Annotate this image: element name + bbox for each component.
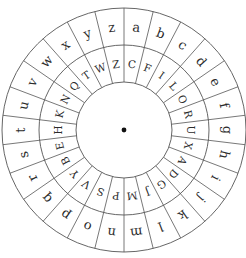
outer-ring-letter: f: [217, 101, 233, 110]
outer-ring-letter: q: [38, 191, 55, 207]
outer-ring-letter: t: [13, 127, 28, 133]
inner-ring-letter: Q: [67, 78, 82, 93]
outer-ring-letter: x: [58, 36, 73, 53]
outer-ring-letter: y: [80, 25, 94, 42]
inner-ring-letter: I: [157, 69, 167, 81]
outer-ring-letter: u: [15, 99, 32, 111]
inner-ring-letter: U: [185, 126, 197, 135]
inner-ring-letter: R: [182, 109, 196, 121]
cipher-wheel[interactable]: abcdefghijklmnopqrstuvwxyz CFILORUXADGJM…: [0, 0, 246, 258]
inner-ring-letter: X: [182, 141, 196, 152]
inner-ring-letter: M: [126, 189, 138, 202]
outer-ring-letter: k: [175, 207, 190, 224]
inner-ring-letter: E: [53, 141, 66, 151]
outer-ring-letter: s: [15, 150, 31, 160]
outer-ring-letter: p: [58, 207, 73, 224]
inner-ring-letter: C: [127, 58, 136, 71]
inner-ring-letter: L: [167, 79, 181, 92]
inner-ring-letter: N: [58, 92, 73, 106]
outer-ring-letter: v: [24, 75, 41, 90]
outer-ring-letter: h: [216, 149, 233, 161]
inner-ring-letter: H: [52, 125, 64, 134]
outer-ring-letter: i: [208, 173, 223, 184]
inner-ring-letter: G: [155, 177, 169, 192]
inner-ring-letter: P: [112, 190, 120, 203]
inner-ring-letter: T: [80, 68, 93, 82]
outer-ring-letter: w: [37, 52, 56, 70]
inner-ring-letter: Y: [67, 167, 82, 182]
inner-ring-letter: F: [142, 61, 153, 75]
inner-ring-letter: O: [176, 92, 191, 106]
outer-ring-letter: z: [107, 19, 116, 35]
inner-ring-letter: K: [53, 109, 67, 120]
inner-ring-letter: Z: [112, 58, 121, 71]
outer-ring-letter: g: [220, 126, 235, 134]
outer-ring-letter: j: [195, 191, 210, 205]
outer-ring-letter: m: [129, 225, 143, 241]
outer-ring-letter: b: [154, 25, 167, 42]
inner-ring-letter: J: [143, 185, 152, 198]
outer-ring-letter: c: [176, 37, 191, 53]
outer-ring-letter: n: [106, 225, 117, 241]
outer-ring-letter: e: [207, 75, 224, 89]
inner-ring-letter: W: [93, 60, 108, 75]
outer-ring-letter: a: [132, 19, 142, 35]
outer-ring-letter: o: [81, 218, 94, 235]
outer-ring-letter: r: [24, 171, 41, 184]
inner-ring-letter: A: [176, 154, 191, 168]
inner-ring-letter: D: [166, 167, 181, 181]
outer-ring-letter: d: [193, 53, 210, 69]
inner-ring-letter: S: [95, 185, 106, 199]
center-pivot-dot: [122, 128, 127, 133]
outer-ring-letter: l: [156, 219, 165, 235]
inner-ring-letter: V: [79, 177, 93, 192]
inner-ring-letter: B: [58, 154, 72, 167]
